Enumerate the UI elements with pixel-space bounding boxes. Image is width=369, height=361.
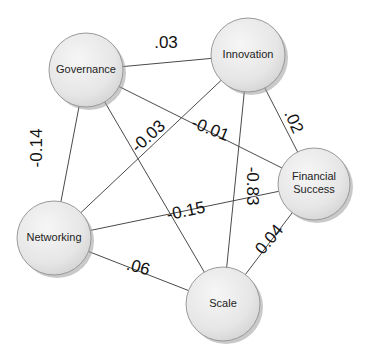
edge-label-governance-financial: -0.01 — [189, 113, 232, 145]
node-label: Financial — [292, 170, 336, 182]
node-networking: Networking — [17, 201, 94, 278]
node-innovation: Innovation — [211, 18, 288, 95]
network-diagram: GovernanceInnovationFinancialSuccessNetw… — [0, 0, 369, 361]
nodes-layer: GovernanceInnovationFinancialSuccessNetw… — [17, 18, 353, 344]
edge-label-innovation-financial: .02 — [280, 107, 307, 136]
node-financial: FinancialSuccess — [278, 148, 353, 223]
node-label: Networking — [26, 231, 81, 243]
edge-label-governance-innovation: .03 — [154, 33, 178, 52]
node-label: Innovation — [223, 48, 274, 60]
node-label: Governance — [56, 63, 116, 75]
edge-label-networking-scale: .06 — [124, 255, 152, 279]
edge-label-networking-financial: -0.15 — [165, 198, 207, 225]
edge-label-innovation-scale: -0.83 — [243, 167, 262, 206]
node-label: Success — [293, 183, 335, 195]
edge-label-innovation-networking: -0.03 — [128, 116, 170, 156]
edge-label-governance-networking: -0.14 — [27, 129, 46, 168]
node-governance: Governance — [49, 33, 126, 110]
node-label: Scale — [209, 297, 237, 309]
node-scale: Scale — [186, 267, 263, 344]
